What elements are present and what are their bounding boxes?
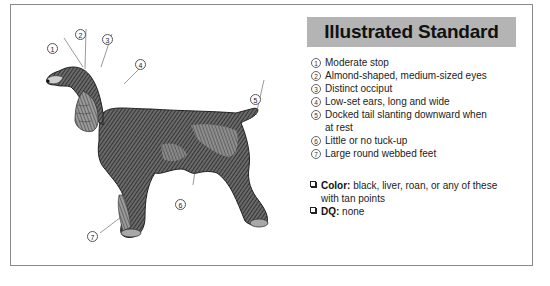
number-badge: 6 [311,136,321,146]
feature-text: Docked tail slanting downward when at re… [325,109,487,133]
feature-text: Low-set ears, long and wide [325,96,450,107]
feature-item: 2Almond-shaped, medium-sized eyes [311,69,526,82]
feature-text: Moderate stop [325,57,389,68]
callout-5: 5 [250,94,261,105]
feature-text: Little or no tuck-up [325,135,407,146]
feature-text: Almond-shaped, medium-sized eyes [325,70,487,81]
feature-item: 7Large round webbed feet [311,147,526,160]
feature-item: 3Distinct occiput [311,82,526,95]
title-banner: Illustrated Standard [307,17,516,47]
number-badge: 5 [311,110,321,120]
callout-3: 3 [102,34,113,45]
feature-item: 6Little or no tuck-up [311,134,526,147]
callout-6: 6 [175,199,186,210]
number-badge: 1 [311,58,321,68]
note-color: Color: black, liver, roan, or any of the… [311,179,511,205]
number-badge: 7 [311,149,321,159]
feature-list: 1Moderate stop 2Almond-shaped, medium-si… [311,56,526,160]
note-label: Color: [321,180,350,191]
note-text: none [339,206,364,217]
callout-2: 2 [75,29,86,40]
feature-text: Large round webbed feet [325,148,436,159]
feature-item: 4Low-set ears, long and wide [311,95,526,108]
dog-illustration: 1 2 3 4 5 6 7 [11,5,291,267]
feature-item: 1Moderate stop [311,56,526,69]
callout-1: 1 [47,43,58,54]
note-label: DQ: [321,206,339,217]
feature-item: 5Docked tail slanting downward when at r… [311,108,495,134]
checkbox-bullet-icon [311,208,317,214]
checkbox-bullet-icon [311,182,317,188]
standard-card: 1 2 3 4 5 6 7 Illustrated Standard 1Mode… [10,4,533,266]
number-badge: 2 [311,71,321,81]
note-dq: DQ: none [311,205,526,218]
feature-text: Distinct occiput [325,83,392,94]
callout-7: 7 [87,231,98,242]
number-badge: 4 [311,97,321,107]
number-badge: 3 [311,84,321,94]
panel-title: Illustrated Standard [307,17,516,47]
notes-list: Color: black, liver, roan, or any of the… [311,179,526,218]
callout-4: 4 [135,59,146,70]
